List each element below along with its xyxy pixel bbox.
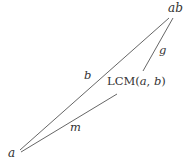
node-ab-label: ab bbox=[168, 2, 183, 14]
lcm-prefix: LCM( bbox=[107, 74, 140, 88]
diagram-canvas: ab a LCM(a, b) b g m bbox=[0, 0, 185, 164]
edge-m-label: m bbox=[70, 122, 81, 134]
edge-a-to-lcm bbox=[21, 94, 117, 152]
lcm-suffix: ) bbox=[161, 74, 166, 88]
lcm-sep: , bbox=[147, 74, 154, 88]
edge-b-label: b bbox=[84, 70, 91, 82]
node-a-label: a bbox=[8, 147, 15, 159]
edge-g-label: g bbox=[159, 45, 166, 57]
node-lcm-label: LCM(a, b) bbox=[107, 76, 166, 88]
lcm-arg-a: a bbox=[140, 74, 147, 88]
edge-lcm-to-ab bbox=[143, 18, 173, 71]
